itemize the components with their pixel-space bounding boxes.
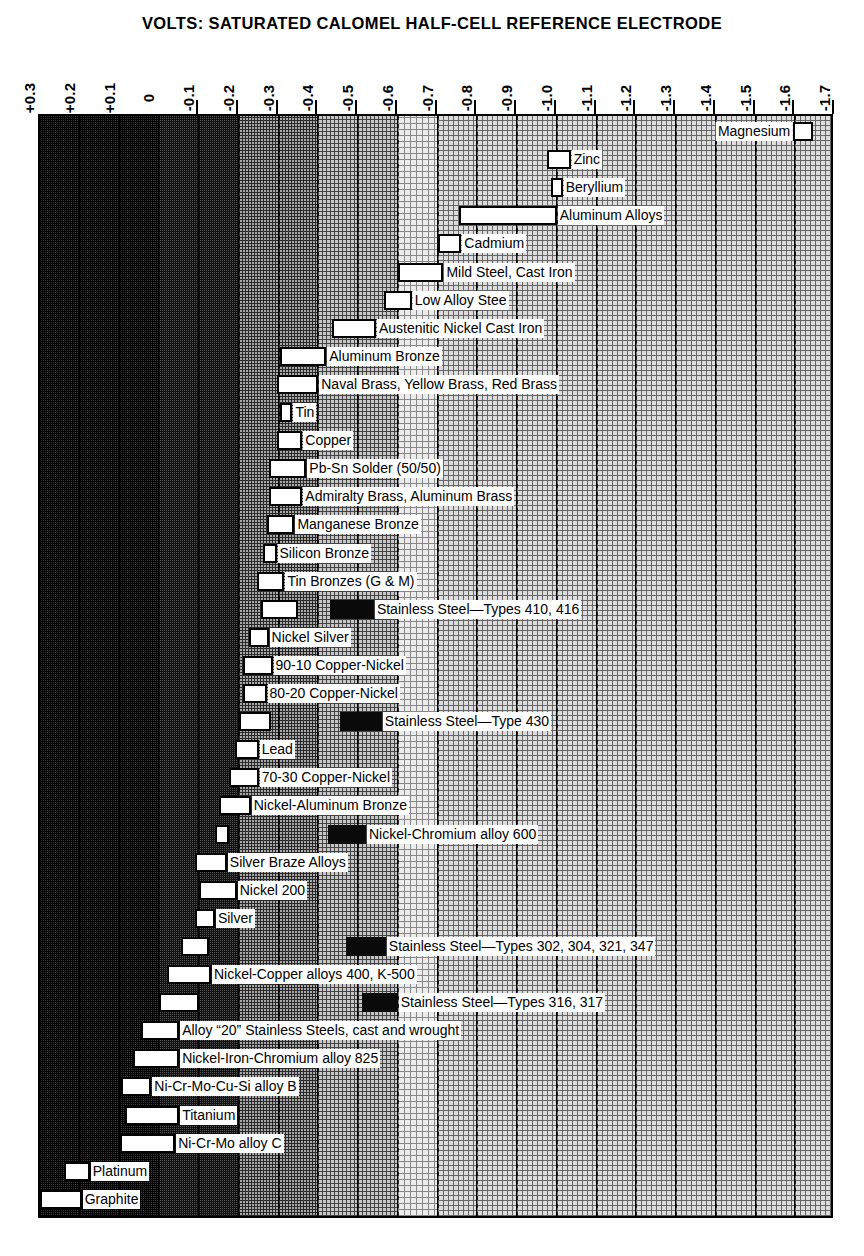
chart-row[interactable]: Ni-Cr-Mo-Cu-Si alloy B: [40, 1073, 831, 1099]
chart-row[interactable]: Titanium: [40, 1102, 831, 1128]
range-bar[interactable]: [235, 740, 259, 759]
chart-row[interactable]: Ni-Cr-Mo alloy C: [40, 1130, 831, 1156]
chart-row[interactable]: Tin: [40, 399, 831, 425]
range-bar-low-velocity[interactable]: [340, 712, 382, 731]
range-bar-low-velocity[interactable]: [346, 937, 386, 956]
range-bar-low-velocity[interactable]: [362, 993, 398, 1012]
chart-row[interactable]: Magnesium: [40, 118, 831, 144]
chart-row[interactable]: Nickel Silver: [40, 624, 831, 650]
range-bar[interactable]: [141, 1021, 179, 1040]
axis-tick-mark: [633, 100, 635, 114]
chart-row[interactable]: 70-30 Copper-Nickel: [40, 764, 831, 790]
chart-row[interactable]: Low Alloy Stee: [40, 287, 831, 313]
range-bar[interactable]: [120, 1134, 176, 1153]
range-bar[interactable]: [195, 909, 215, 928]
range-bar[interactable]: [243, 656, 273, 675]
axis-tick-label: -1.6: [776, 85, 793, 112]
chart-row[interactable]: Alloy “20” Stainless Steels, cast and wr…: [40, 1017, 831, 1043]
chart-row[interactable]: Cadmium: [40, 230, 831, 256]
range-bar[interactable]: [249, 628, 269, 647]
range-bar[interactable]: [199, 881, 237, 900]
range-bar[interactable]: [167, 965, 211, 984]
chart-row[interactable]: Beryllium: [40, 174, 831, 200]
range-bar[interactable]: [64, 1162, 90, 1181]
range-bar[interactable]: [261, 600, 299, 619]
chart-row[interactable]: Silver Braze Alloys: [40, 849, 831, 875]
range-bar[interactable]: [267, 515, 295, 534]
chart-row[interactable]: Nickel-Iron-Chromium alloy 825: [40, 1045, 831, 1071]
axis-tick-mark: [474, 100, 476, 114]
chart-row[interactable]: Nickel-Chromium alloy 600: [40, 821, 831, 847]
chart-row[interactable]: Aluminum Bronze: [40, 343, 831, 369]
range-bar[interactable]: [459, 206, 556, 225]
range-bar[interactable]: [229, 768, 259, 787]
range-bar[interactable]: [159, 993, 199, 1012]
axis-tick-mark: [236, 100, 238, 114]
range-bar[interactable]: [219, 796, 251, 815]
range-bar[interactable]: [277, 431, 303, 450]
x-axis: +0.3+0.2+0.10-0.1-0.2-0.3-0.4-0.5-0.6-0.…: [0, 42, 864, 114]
chart-row[interactable]: Tin Bronzes (G & M): [40, 568, 831, 594]
row-label: Beryllium: [564, 178, 626, 197]
row-label: Titanium: [180, 1106, 237, 1125]
range-bar-low-velocity[interactable]: [328, 825, 366, 844]
chart-row[interactable]: Stainless Steel—Types 410, 416: [40, 596, 831, 622]
range-bar[interactable]: [195, 853, 227, 872]
range-bar[interactable]: [384, 291, 412, 310]
chart-row[interactable]: Mild Steel, Cast Iron: [40, 259, 831, 285]
chart-row[interactable]: Manganese Bronze: [40, 511, 831, 537]
range-bar[interactable]: [280, 347, 326, 366]
range-bar[interactable]: [121, 1077, 151, 1096]
range-bar[interactable]: [181, 937, 209, 956]
chart-row[interactable]: 80-20 Copper-Nickel: [40, 680, 831, 706]
row-label: Admiralty Brass, Aluminum Brass: [303, 487, 514, 506]
axis-tick-mark: [276, 100, 278, 114]
chart-row[interactable]: Nickel-Copper alloys 400, K-500: [40, 961, 831, 987]
chart-row[interactable]: Stainless Steel—Type 430: [40, 708, 831, 734]
range-bar[interactable]: [40, 1190, 82, 1209]
range-bar[interactable]: [793, 122, 813, 141]
range-bar[interactable]: [215, 825, 229, 844]
axis-tick-label: -0.9: [498, 85, 515, 112]
chart-row[interactable]: Aluminum Alloys: [40, 202, 831, 228]
range-bar[interactable]: [125, 1106, 179, 1125]
axis-tick-mark: [435, 100, 437, 114]
range-bar[interactable]: [133, 1049, 179, 1068]
chart-row[interactable]: Nickel-Aluminum Bronze: [40, 792, 831, 818]
chart-row[interactable]: Graphite: [40, 1186, 831, 1212]
range-bar[interactable]: [277, 375, 319, 394]
row-label: Nickel-Copper alloys 400, K-500: [212, 965, 417, 984]
axis-tick-label: -0.8: [458, 85, 475, 112]
range-bar[interactable]: [263, 544, 277, 563]
range-bar[interactable]: [551, 178, 563, 197]
chart-row[interactable]: Zinc: [40, 146, 831, 172]
axis-tick-mark: [395, 100, 397, 114]
range-bar[interactable]: [438, 234, 462, 253]
range-bar[interactable]: [269, 459, 307, 478]
chart-row[interactable]: Nickel 200: [40, 877, 831, 903]
chart-row[interactable]: Silver: [40, 905, 831, 931]
row-label: Low Alloy Stee: [413, 291, 509, 310]
range-bar[interactable]: [547, 150, 571, 169]
chart-row[interactable]: Naval Brass, Yellow Brass, Red Brass: [40, 371, 831, 397]
range-bar[interactable]: [280, 403, 292, 422]
chart-row[interactable]: Silicon Bronze: [40, 540, 831, 566]
chart-row[interactable]: Platinum: [40, 1158, 831, 1184]
range-bar[interactable]: [257, 572, 285, 591]
row-label: Platinum: [91, 1162, 149, 1181]
chart-row[interactable]: Lead: [40, 736, 831, 762]
chart-row[interactable]: Admiralty Brass, Aluminum Brass: [40, 483, 831, 509]
chart-row[interactable]: Austenitic Nickel Cast Iron: [40, 315, 831, 341]
chart-row[interactable]: Stainless Steel—Types 316, 317: [40, 989, 831, 1015]
range-bar[interactable]: [269, 487, 303, 506]
range-bar[interactable]: [398, 263, 444, 282]
range-bar[interactable]: [332, 319, 376, 338]
range-bar[interactable]: [239, 712, 271, 731]
chart-row[interactable]: Pb-Sn Solder (50/50): [40, 455, 831, 481]
axis-tick-mark: [792, 100, 794, 114]
chart-row[interactable]: Copper: [40, 427, 831, 453]
range-bar-low-velocity[interactable]: [330, 600, 374, 619]
range-bar[interactable]: [243, 684, 267, 703]
chart-row[interactable]: Stainless Steel—Types 302, 304, 321, 347: [40, 933, 831, 959]
chart-row[interactable]: 90-10 Copper-Nickel: [40, 652, 831, 678]
